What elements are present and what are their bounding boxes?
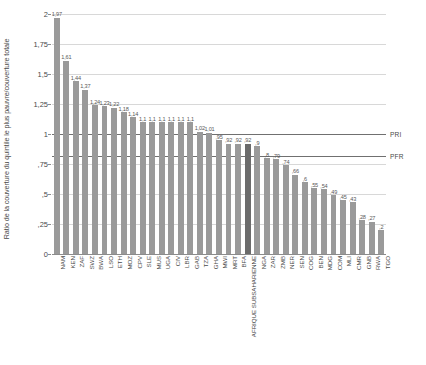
bar: 1,22: [111, 108, 117, 254]
bar-value-label: 1,1: [168, 116, 175, 122]
bar: ,45: [340, 200, 346, 254]
plot-area: 21,751,51,251,75,5,250 PRIPFR 1,971,611,…: [52, 14, 386, 254]
bar: 1,01: [206, 133, 212, 254]
bar: 1,23: [102, 106, 108, 254]
x-axis-category-label: CMR: [355, 256, 362, 270]
y-axis-tick-label: 1,25: [33, 100, 48, 109]
x-axis-category-label: MWI: [221, 256, 228, 269]
x-axis-category-label: MRT: [231, 256, 238, 269]
bar: ,6: [302, 182, 308, 254]
bar: 1,1: [168, 122, 174, 254]
y-axis-tick-mark: [48, 254, 51, 255]
bar-value-label: ,8: [265, 152, 269, 158]
bar-value-label: 1,37: [80, 83, 90, 89]
bar-value-label: ,55: [311, 182, 318, 188]
bar-value-label: 1,1: [177, 116, 184, 122]
y-axis-tick-mark: [48, 194, 51, 195]
bar-value-label: 1,1: [139, 116, 146, 122]
bar: ,79: [273, 159, 279, 254]
bar-value-label: ,27: [368, 215, 375, 221]
x-axis-category-label: GAB: [193, 256, 200, 269]
x-axis-category-label: BEN: [317, 256, 324, 269]
y-axis-tick-mark: [48, 44, 51, 45]
bar-value-label: ,92: [225, 137, 232, 143]
gridline: [52, 74, 386, 75]
bar: 1,1: [149, 122, 155, 254]
x-axis-category-label: UGA: [164, 256, 171, 269]
x-axis-category-label: NGA: [260, 256, 267, 269]
chart-root: Ratio de la couverture du quintile le pl…: [0, 0, 426, 365]
bar: ,49: [331, 195, 337, 254]
bar-value-label: 1,1: [158, 116, 165, 122]
x-axis-category-label: SEN: [298, 256, 305, 269]
y-axis-tick-label: ,25: [38, 220, 48, 229]
bar: ,66: [292, 175, 298, 254]
x-axis-category-label: TZA: [202, 256, 209, 268]
bar: ,8: [264, 158, 270, 254]
bar-value-label: ,45: [339, 194, 346, 200]
x-axis-category-label: ZMB: [279, 256, 286, 269]
x-axis-category-label: GNB: [365, 256, 372, 269]
bar-value-label: 1,97: [52, 11, 62, 17]
y-axis-tick-mark: [48, 104, 51, 105]
bar: 1,14: [130, 117, 136, 254]
gridline: [52, 14, 386, 15]
y-axis-tick-mark: [48, 74, 51, 75]
bar: ,28: [359, 220, 365, 254]
bar: 1,1: [140, 122, 146, 254]
x-axis-category-label: RWA: [374, 256, 381, 270]
x-axis-category-label: SLE: [145, 256, 152, 268]
bar-value-label: ,43: [349, 196, 356, 202]
y-axis-tick-mark: [48, 164, 51, 165]
bar: ,43: [350, 202, 356, 254]
x-axis-category-label: COM: [336, 256, 343, 270]
bar-value-label: 1,1: [187, 116, 194, 122]
bar: 1,97: [54, 18, 60, 254]
y-axis-tick-label: ,75: [38, 160, 48, 169]
bar: ,95: [216, 140, 222, 254]
x-axis-category-label: MDG: [326, 256, 333, 270]
x-axis-category-label: COG: [307, 256, 314, 270]
x-axis-category-label: KEN: [69, 256, 76, 269]
bar-value-label: 1,1: [149, 116, 156, 122]
bar-value-label: 1,01: [204, 126, 214, 132]
bar-value-label: 1,14: [128, 111, 138, 117]
bar: 1,18: [121, 112, 127, 254]
bar-value-label: ,6: [303, 176, 307, 182]
bar: ,9: [254, 146, 260, 254]
x-axis-category-label: AFRIQUE SUBSAHARIENNE: [250, 256, 257, 337]
x-axis-category-label: ZAR: [269, 256, 276, 268]
gridline: [52, 44, 386, 45]
x-axis-category-label: BWA: [97, 256, 104, 270]
x-axis-category-label: GHA: [212, 256, 219, 269]
x-axis-category-label: BFA: [240, 256, 247, 268]
bar: 1,1: [187, 122, 193, 254]
bar: 1,37: [82, 90, 88, 254]
bar-value-label: ,92: [234, 137, 241, 143]
bar: 1,61: [63, 61, 69, 254]
bar: ,55: [311, 188, 317, 254]
bar: ,2: [378, 230, 384, 254]
bar: 1,1: [159, 122, 165, 254]
y-axis-title: Ratio de la couverture du quintile le pl…: [2, 14, 14, 264]
bar-value-label: ,92: [244, 137, 251, 143]
y-axis-tick-mark: [48, 134, 51, 135]
bar-value-label: 1,61: [61, 54, 71, 60]
bar: 1,24: [92, 105, 98, 254]
x-axis-category-label: LSO: [107, 256, 114, 268]
y-axis-tick-mark: [48, 224, 51, 225]
bar-value-label: ,28: [359, 214, 366, 220]
x-axis-category-label: TGO: [384, 256, 391, 269]
y-axis-tick-mark: [48, 14, 51, 15]
bar: ,74: [283, 165, 289, 254]
bar-value-label: 1,44: [71, 75, 81, 81]
bar-value-label: ,66: [292, 168, 299, 174]
y-axis-tick-label: 1,5: [38, 70, 48, 79]
bar: 1,1: [178, 122, 184, 254]
bar: ,92: [235, 144, 241, 254]
bar-value-label: ,2: [379, 224, 383, 230]
bar-value-label: ,49: [330, 189, 337, 195]
bar-value-label: ,74: [282, 159, 289, 165]
bar: ,54: [321, 189, 327, 254]
x-axis-category-label: MOZ: [126, 256, 133, 270]
